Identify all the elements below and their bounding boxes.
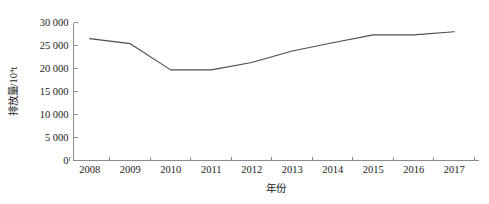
x-tick-label: 2015	[363, 164, 384, 175]
line-chart-figure: 05 00010 00015 00020 00025 00030 000 200…	[0, 0, 489, 204]
x-tick-label: 2009	[120, 164, 141, 175]
x-tick-label: 2010	[160, 164, 181, 175]
y-tick-label: 20 000	[40, 63, 69, 74]
svg-text:排放量/104t: 排放量/104t	[7, 67, 19, 117]
y-tick-label: 15 000	[40, 86, 69, 97]
x-tick-label: 2012	[241, 164, 262, 175]
y-tick-label: 0	[63, 155, 68, 166]
x-tick-label: 2014	[322, 164, 344, 175]
y-tick-label: 25 000	[40, 40, 69, 51]
y-tick-label: 5 000	[45, 132, 69, 143]
x-tick-label: 2013	[282, 164, 303, 175]
x-axis-title: 年份	[266, 182, 287, 194]
chart-canvas: 05 00010 00015 00020 00025 00030 000 200…	[0, 0, 489, 204]
emission-series-line	[90, 32, 455, 70]
y-tick-label: 10 000	[40, 109, 69, 120]
x-tick-label: 2017	[444, 164, 465, 175]
x-tick-label: 2016	[403, 164, 424, 175]
x-tick-label: 2008	[79, 164, 100, 175]
y-axis-tick-labels: 05 00010 00015 00020 00025 00030 000	[40, 17, 69, 166]
y-tick-label: 30 000	[40, 17, 69, 28]
x-axis-ticks	[69, 157, 474, 161]
x-tick-label: 2011	[201, 164, 222, 175]
y-axis-title: 排放量/104t	[7, 67, 19, 117]
x-axis-tick-labels: 2008200920102011201220132014201520162017	[79, 164, 465, 175]
y-axis-ticks	[74, 23, 78, 161]
